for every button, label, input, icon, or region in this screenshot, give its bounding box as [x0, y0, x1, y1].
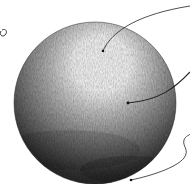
- spiral-mark: [0, 29, 6, 36]
- sphere: [0, 22, 180, 184]
- sphere-diagram: [0, 0, 190, 184]
